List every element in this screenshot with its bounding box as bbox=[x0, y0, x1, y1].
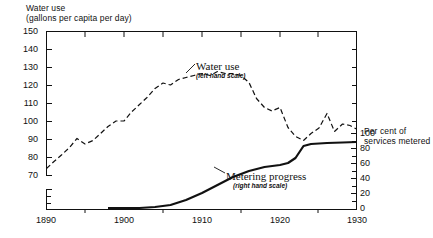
series-water-use bbox=[47, 72, 357, 169]
series-sublabel-metering-progress: (right hand scale) bbox=[233, 182, 287, 189]
ytick-label-left-150: 150 bbox=[16, 26, 38, 36]
xtick-label-1930: 1930 bbox=[337, 215, 377, 225]
xticks-bottom bbox=[85, 210, 318, 214]
xtick-label-1920: 1920 bbox=[260, 215, 300, 225]
chart-figure bbox=[0, 0, 433, 238]
leader-line-water-use bbox=[186, 64, 195, 73]
ytick-label-left-130: 130 bbox=[16, 62, 38, 72]
ytick-label-right-40: 40 bbox=[360, 173, 370, 183]
ytick-label-left-70: 70 bbox=[16, 170, 38, 180]
series-label-metering-progress: Metering progress bbox=[226, 170, 306, 182]
left-axis-title-line2: (gallons per capita per day) bbox=[26, 13, 132, 23]
ytick-label-left-140: 140 bbox=[16, 44, 38, 54]
xtick-label-1910: 1910 bbox=[182, 215, 222, 225]
leader-line-metering-progress bbox=[214, 167, 225, 173]
ytick-label-left-90: 90 bbox=[16, 134, 38, 144]
ytick-label-left-110: 110 bbox=[16, 98, 38, 108]
series-label-water-use: Water use bbox=[196, 60, 239, 72]
xticks-top bbox=[85, 32, 318, 38]
xtick-label-1890: 1890 bbox=[26, 215, 66, 225]
series-sublabel-water-use: (left hand scale) bbox=[196, 72, 245, 79]
left-axis-title: Water use(gallons per capita per day) bbox=[26, 3, 132, 23]
ytick-label-left-100: 100 bbox=[16, 116, 38, 126]
ytick-label-right-20: 20 bbox=[360, 188, 370, 198]
ytick-label-right-0: 0 bbox=[360, 203, 365, 213]
ytick-label-right-80: 80 bbox=[360, 143, 370, 153]
ytick-label-right-100: 100 bbox=[360, 128, 375, 138]
ytick-label-right-60: 60 bbox=[360, 158, 370, 168]
ytick-label-left-120: 120 bbox=[16, 80, 38, 90]
xtick-label-1900: 1900 bbox=[104, 215, 144, 225]
ytick-label-left-80: 80 bbox=[16, 152, 38, 162]
left-axis-title-line1: Water use bbox=[26, 3, 65, 13]
